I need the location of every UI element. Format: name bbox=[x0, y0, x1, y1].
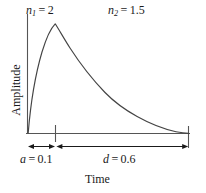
annotation-n2-operator: = bbox=[118, 3, 130, 17]
annotation-attack-operator: = bbox=[26, 152, 38, 166]
decay-right-arrowhead bbox=[182, 144, 188, 149]
y-axis-label: Amplitude bbox=[10, 54, 22, 126]
attack-right-arrowhead bbox=[49, 144, 55, 149]
annotation-attack-value: 0.1 bbox=[38, 152, 53, 166]
annotation-attack-time: a = 0.1 bbox=[20, 153, 53, 165]
decay-left-arrowhead bbox=[56, 144, 62, 149]
annotation-n1: n1 = 2 bbox=[26, 4, 54, 16]
annotation-decay-operator: = bbox=[109, 152, 121, 166]
envelope-curve bbox=[28, 24, 188, 134]
annotation-n2-value: 1.5 bbox=[130, 3, 145, 17]
annotation-n1-operator: = bbox=[36, 3, 48, 17]
annotation-n1-value: 2 bbox=[48, 3, 54, 17]
annotation-n1-subscript: 1 bbox=[32, 9, 36, 18]
annotation-decay-value: 0.6 bbox=[121, 152, 136, 166]
annotation-n2-subscript: 2 bbox=[114, 9, 118, 18]
annotation-n2: n2 = 1.5 bbox=[108, 4, 145, 16]
envelope-figure: n1 = 2 n2 = 1.5 a = 0.1 d = 0.6 Time Amp… bbox=[0, 0, 206, 193]
attack-left-arrowhead bbox=[28, 144, 34, 149]
annotation-decay-time: d = 0.6 bbox=[103, 153, 136, 165]
x-axis-label: Time bbox=[85, 173, 110, 185]
